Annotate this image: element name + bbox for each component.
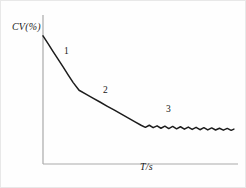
segment-label-3: 3 <box>166 104 171 114</box>
y-axis-label: CV(%) <box>12 21 41 32</box>
segment-label-2: 2 <box>103 85 108 95</box>
segment-label-1: 1 <box>64 46 69 56</box>
axes-group <box>43 15 238 164</box>
cv-decay-curve <box>43 36 234 130</box>
data-series-group <box>43 36 234 130</box>
x-axis-label: T/s <box>140 161 153 172</box>
figure-container: CV(%) T/s 1 2 3 <box>0 0 246 188</box>
